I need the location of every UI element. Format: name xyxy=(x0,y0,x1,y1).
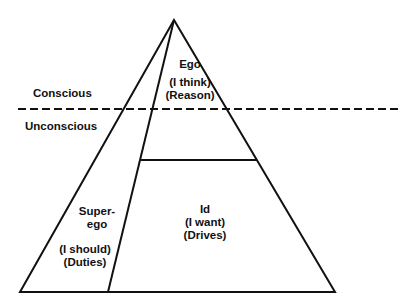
ego-region: Ego (I think) (Reason) xyxy=(155,58,225,102)
superego-basis: (Duties) xyxy=(50,256,120,269)
superego-name-line2: ego xyxy=(62,218,132,231)
superego-name-line1: Super- xyxy=(62,205,132,218)
id-phrase: (I want) xyxy=(170,216,240,229)
id-basis: (Drives) xyxy=(170,229,240,242)
conscious-label: Conscious xyxy=(33,87,92,100)
ego-name: Ego xyxy=(155,58,225,71)
ego-phrase: (I think) xyxy=(155,76,225,89)
id-region: Id (I want) (Drives) xyxy=(170,203,240,242)
ego-basis: (Reason) xyxy=(155,89,225,102)
id-name: Id xyxy=(170,203,240,216)
superego-phrase: (I should) xyxy=(50,243,120,256)
superego-region: Super- ego (I should) (Duties) xyxy=(50,205,120,269)
unconscious-label: Unconscious xyxy=(25,120,97,133)
